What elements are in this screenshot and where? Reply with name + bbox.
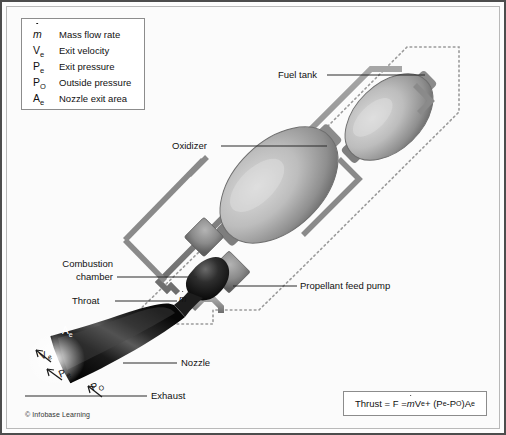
legend-row: Pe Exit pressure [22, 58, 144, 74]
legend-row: Ve Exit velocity [22, 42, 144, 58]
combustion-chamber-line2: chamber [76, 271, 113, 282]
legend-symbol-ae: Ae [33, 90, 59, 111]
combustion-chamber-line1: Combustion [62, 258, 113, 269]
callout-exhaust: Exhaust [151, 390, 185, 402]
legend-row: m Mass flow rate [22, 26, 144, 42]
callout-throat: Throat [72, 295, 99, 307]
copyright-notice: © Infobase Learning [25, 411, 90, 418]
callout-nozzle: Nozzle [181, 357, 210, 369]
legend-row: Ae Nozzle exit area [22, 90, 144, 106]
figure-page: m Mass flow rate Ve Exit velocity Pe Exi… [0, 0, 506, 435]
callout-propellant-feed-pump: Propellant feed pump [300, 280, 390, 292]
formula-a-sub: e [471, 400, 475, 407]
legend-text-ve: Exit velocity [59, 43, 109, 59]
formula-mdot: m [407, 398, 415, 409]
symbol-legend: m Mass flow rate Ve Exit velocity Pe Exi… [21, 18, 145, 110]
formula-plus: + ( [425, 398, 436, 409]
callout-combustion-chamber: Combustion chamber [53, 258, 113, 283]
legend-text-pe: Exit pressure [59, 59, 114, 75]
legend-text-po: Outside pressure [59, 75, 131, 91]
legend-text-ae: Nozzle exit area [59, 91, 127, 107]
callout-oxidizer: Oxidizer [172, 140, 207, 152]
legend-text-mdot: Mass flow rate [59, 27, 120, 43]
annotation-mdot: m [179, 294, 187, 304]
thrust-formula-box: Thrust = F = mVe + (Pe - PO)Ae [343, 391, 487, 416]
formula-lead: Thrust = F = [355, 398, 407, 409]
callout-fuel-tank: Fuel tank [278, 69, 317, 81]
annotation-ae: Ae [62, 325, 73, 338]
figure-inner-frame: m Mass flow rate Ve Exit velocity Pe Exi… [6, 6, 500, 429]
legend-row: PO Outside pressure [22, 74, 144, 90]
legend-symbol-mdot: m [33, 26, 59, 42]
